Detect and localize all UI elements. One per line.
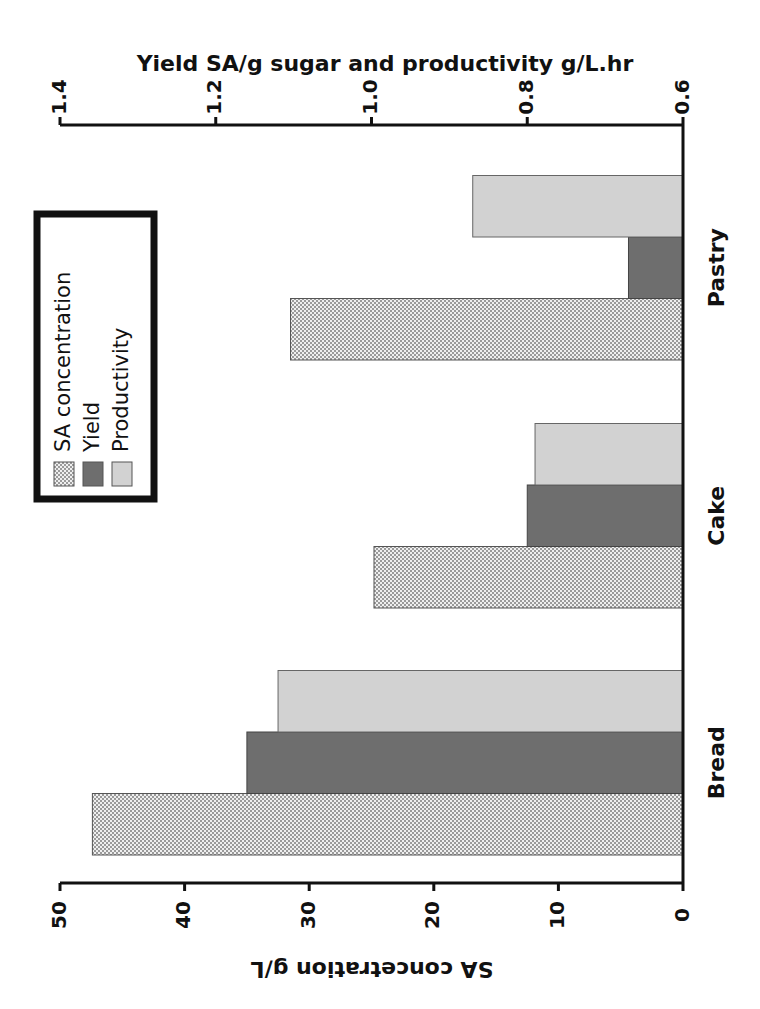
bar-bread-sa-concentration: [92, 794, 683, 856]
primary-tick-label: 50: [47, 901, 71, 929]
legend-label: Productivity: [109, 328, 133, 453]
bar-pastry-yield: [628, 237, 683, 299]
primary-tick-label: 30: [296, 901, 320, 929]
bar-bread-yield: [247, 732, 683, 794]
primary-tick-label: 10: [545, 901, 569, 929]
secondary-tick-label: 0.6: [670, 79, 694, 114]
bar-pastry-sa-concentration: [291, 299, 683, 361]
bar-chart: BreadCakePastry 01020304050SA concetrati…: [0, 0, 760, 1009]
bar-bread-productivity: [278, 671, 683, 733]
bar-pastry-productivity: [473, 176, 683, 238]
secondary-tick-label: 1.0: [358, 79, 382, 114]
secondary-axis-title: Yield SA/g sugar and productivity g/L.hr: [136, 51, 634, 76]
legend-label: SA concentration: [51, 272, 75, 452]
legend-swatch: [54, 462, 74, 486]
primary-axis-title: SA concetration g/L: [251, 957, 494, 982]
primary-tick-label: 20: [420, 901, 444, 929]
category-label: Cake: [704, 486, 729, 546]
category-label: Bread: [704, 726, 729, 799]
legend-swatch: [83, 462, 103, 486]
legend: SA concentrationYieldProductivity: [37, 214, 154, 499]
category-label: Pastry: [704, 228, 729, 307]
secondary-tick-label: 1.4: [47, 79, 71, 114]
legend-swatch: [112, 462, 132, 486]
bar-cake-productivity: [535, 424, 683, 486]
primary-tick-label: 0: [670, 908, 694, 922]
secondary-tick-label: 1.2: [202, 79, 226, 114]
bars-group: BreadCakePastry: [92, 176, 729, 856]
secondary-tick-label: 0.8: [514, 79, 538, 114]
bar-cake-sa-concentration: [374, 547, 683, 609]
primary-tick-label: 40: [171, 901, 195, 929]
bar-cake-yield: [527, 485, 683, 547]
legend-label: Yield: [80, 402, 104, 453]
